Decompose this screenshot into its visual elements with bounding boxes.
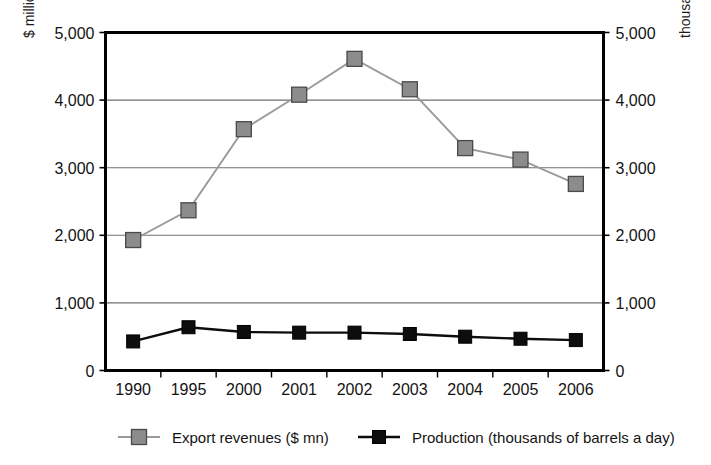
data-point-marker[interactable] — [458, 141, 473, 156]
x-tick-label: 2002 — [337, 381, 373, 398]
x-tick-label: 1995 — [171, 381, 207, 398]
data-point-marker[interactable] — [568, 176, 583, 191]
data-point-marker[interactable] — [127, 335, 140, 348]
data-point-marker[interactable] — [402, 82, 417, 97]
legend-swatch — [132, 430, 147, 445]
x-tick-label: 2001 — [281, 381, 317, 398]
y2-axis-title: thousands of barrels a day — [677, 0, 693, 38]
chart-container: 01,0002,0003,0004,0005,000 01,0002,0003,… — [0, 0, 711, 465]
x-tick-label: 2004 — [447, 381, 483, 398]
x-tick-label: 1990 — [115, 381, 151, 398]
y2-tick-label: 0 — [616, 363, 625, 380]
y-tick-label: 0 — [86, 363, 95, 380]
y-tick-label: 3,000 — [54, 160, 94, 177]
y2-tick-label: 2,000 — [616, 227, 656, 244]
data-point-marker[interactable] — [182, 321, 195, 334]
line-chart: 01,0002,0003,0004,0005,000 01,0002,0003,… — [0, 0, 711, 465]
data-point-marker[interactable] — [292, 87, 307, 102]
data-point-marker[interactable] — [569, 334, 582, 347]
y-axis-title: $ millions — [21, 0, 37, 38]
y2-tick-label: 5,000 — [616, 25, 656, 42]
x-tick-label: 2006 — [558, 381, 594, 398]
data-point-marker[interactable] — [459, 330, 472, 343]
data-point-marker[interactable] — [347, 51, 362, 66]
legend-label: Production (thousands of barrels a day) — [412, 429, 675, 446]
data-point-marker[interactable] — [514, 332, 527, 345]
data-point-marker[interactable] — [236, 122, 251, 137]
data-point-marker[interactable] — [126, 233, 141, 248]
y-tick-label: 1,000 — [54, 295, 94, 312]
legend-label: Export revenues ($ mn) — [172, 429, 329, 446]
data-point-marker[interactable] — [513, 152, 528, 167]
data-point-marker[interactable] — [181, 203, 196, 218]
y-tick-label: 4,000 — [54, 92, 94, 109]
legend-swatch — [373, 431, 386, 444]
x-axis-tick-labels: 199019952000200120022003200420052006 — [115, 381, 593, 398]
data-point-marker[interactable] — [348, 326, 361, 339]
x-tick-label: 2000 — [226, 381, 262, 398]
y2-tick-label: 3,000 — [616, 160, 656, 177]
data-point-marker[interactable] — [237, 325, 250, 338]
x-tick-label: 2003 — [392, 381, 428, 398]
data-point-marker[interactable] — [403, 327, 416, 340]
data-point-marker[interactable] — [293, 326, 306, 339]
y-tick-label: 5,000 — [54, 25, 94, 42]
y2-tick-label: 1,000 — [616, 295, 656, 312]
y2-tick-label: 4,000 — [616, 92, 656, 109]
y-tick-label: 2,000 — [54, 227, 94, 244]
x-tick-label: 2005 — [503, 381, 539, 398]
